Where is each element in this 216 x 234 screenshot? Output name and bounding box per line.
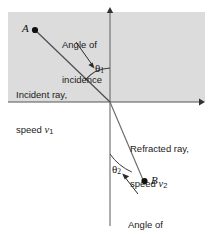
refracted-ray-line-2: speed v2: [130, 178, 189, 192]
refracted-ray-speed-word: speed: [130, 178, 159, 189]
angle-of-incidence-line-2: incidence: [62, 74, 102, 86]
incident-ray-speed-word: speed: [16, 124, 45, 135]
incident-ray-line-1: Incident ray,: [16, 89, 67, 101]
incident-ray-line-2: speed v1: [16, 124, 67, 138]
theta-refraction-label: θ2: [112, 163, 121, 176]
angle-of-incidence-label: Angle of incidence: [62, 16, 102, 108]
angle-of-refraction-line-1: Angle of: [128, 219, 168, 231]
angle-of-incidence-line-1: Angle of: [62, 39, 102, 51]
vertical-axis-arrowhead: [107, 7, 113, 13]
angle-of-refraction-label: Angle of refraction: [128, 196, 168, 234]
refracted-ray-speed-subscript: 2: [163, 181, 167, 190]
incident-ray-speed-subscript: 1: [49, 127, 53, 136]
theta-refraction-subscript: 2: [117, 167, 121, 176]
refracted-ray-line-1: Refracted ray,: [130, 143, 189, 155]
point-a-label: A: [22, 22, 29, 34]
refraction-diagram: A B θ1 θ2 Angle of incidence Incident ra…: [0, 0, 216, 234]
point-a-marker: [32, 27, 38, 33]
incident-ray-label: Incident ray, speed v1: [16, 66, 67, 160]
